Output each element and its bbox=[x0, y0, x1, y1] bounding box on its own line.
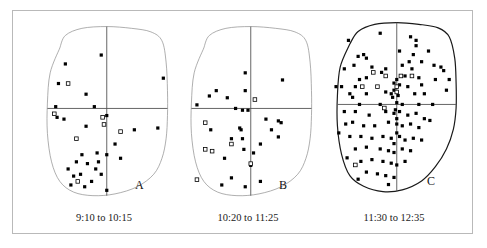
filled-square-marker bbox=[408, 60, 411, 63]
scatter-figure: A 9:10 to 10:15 B 10:20 to 11:25 C 11:30… bbox=[0, 0, 487, 248]
filled-square-marker bbox=[357, 55, 360, 58]
filled-square-marker bbox=[395, 122, 398, 125]
filled-square-marker bbox=[414, 39, 417, 42]
filled-square-marker bbox=[384, 90, 387, 93]
filled-square-marker bbox=[390, 92, 393, 95]
filled-square-marker bbox=[345, 156, 348, 159]
filled-square-marker bbox=[392, 151, 395, 154]
filled-square-marker bbox=[344, 122, 347, 125]
filled-square-marker bbox=[434, 78, 437, 81]
filled-square-marker bbox=[392, 142, 395, 145]
filled-square-marker bbox=[337, 131, 340, 134]
filled-square-marker bbox=[428, 119, 431, 122]
open-square-marker bbox=[372, 71, 376, 75]
panel-c-letter: C bbox=[427, 175, 435, 187]
filled-square-marker bbox=[381, 160, 384, 163]
open-square-marker bbox=[354, 163, 358, 167]
panel-c-plot bbox=[319, 13, 469, 203]
filled-square-marker bbox=[370, 137, 373, 140]
filled-square-marker bbox=[445, 89, 448, 92]
filled-square-marker bbox=[381, 135, 384, 138]
filled-square-marker bbox=[395, 101, 398, 104]
filled-square-marker bbox=[365, 76, 368, 79]
filled-square-marker bbox=[347, 39, 350, 42]
filled-square-marker bbox=[354, 147, 357, 150]
filled-square-marker bbox=[420, 138, 423, 141]
filled-square-marker bbox=[442, 69, 445, 72]
open-square-marker bbox=[399, 74, 403, 78]
filled-square-marker bbox=[414, 112, 417, 115]
filled-square-marker bbox=[395, 163, 398, 166]
filled-square-marker bbox=[420, 60, 423, 63]
figure-frame: A 9:10 to 10:15 B 10:20 to 11:25 C 11:30… bbox=[12, 10, 473, 234]
filled-square-marker bbox=[343, 67, 346, 70]
filled-square-marker bbox=[370, 65, 373, 68]
filled-square-marker bbox=[368, 114, 371, 117]
filled-square-marker bbox=[398, 49, 401, 52]
open-square-marker bbox=[383, 106, 387, 110]
filled-square-marker bbox=[352, 64, 355, 67]
filled-square-marker bbox=[376, 172, 379, 175]
filled-square-marker bbox=[417, 103, 420, 106]
filled-square-marker bbox=[387, 149, 390, 152]
filled-square-marker bbox=[334, 85, 337, 88]
filled-square-marker bbox=[348, 92, 351, 95]
panel-c-caption: 11:30 to 12:35 bbox=[321, 213, 467, 224]
filled-square-marker bbox=[365, 146, 368, 149]
filled-square-marker bbox=[359, 135, 362, 138]
filled-square-marker bbox=[403, 74, 406, 77]
filled-square-marker bbox=[384, 174, 387, 177]
filled-square-marker bbox=[448, 78, 451, 81]
filled-square-marker bbox=[391, 96, 394, 99]
filled-square-marker bbox=[398, 135, 401, 138]
filled-square-marker bbox=[410, 67, 413, 70]
filled-square-marker bbox=[362, 53, 365, 56]
filled-square-marker bbox=[392, 81, 395, 84]
filled-square-marker bbox=[390, 162, 393, 165]
filled-square-marker bbox=[365, 57, 368, 60]
open-square-marker bbox=[395, 90, 399, 94]
filled-square-marker bbox=[379, 32, 382, 35]
filled-square-marker bbox=[409, 122, 412, 125]
filled-square-marker bbox=[370, 158, 373, 161]
filled-square-marker bbox=[379, 103, 382, 106]
filled-square-marker bbox=[351, 121, 354, 124]
filled-square-marker bbox=[413, 92, 416, 95]
filled-square-marker bbox=[406, 85, 409, 88]
filled-square-marker bbox=[379, 147, 382, 150]
filled-square-marker bbox=[409, 149, 412, 152]
filled-square-marker bbox=[412, 53, 415, 56]
filled-square-marker bbox=[401, 103, 404, 106]
filled-square-marker bbox=[403, 160, 406, 163]
filled-square-marker bbox=[357, 178, 360, 181]
filled-square-marker bbox=[365, 92, 368, 95]
open-square-marker bbox=[410, 74, 414, 78]
filled-square-marker bbox=[397, 94, 400, 97]
filled-square-marker bbox=[384, 67, 387, 70]
filled-square-marker bbox=[406, 114, 409, 117]
filled-square-marker bbox=[340, 85, 343, 88]
open-square-marker bbox=[395, 85, 399, 89]
filled-square-marker bbox=[354, 85, 357, 88]
filled-square-marker bbox=[384, 110, 387, 113]
filled-square-marker bbox=[394, 108, 397, 111]
filled-square-marker bbox=[431, 103, 434, 106]
filled-square-marker bbox=[390, 137, 393, 140]
filled-square-marker bbox=[439, 65, 442, 68]
filled-square-marker bbox=[395, 78, 398, 81]
filled-square-marker bbox=[403, 138, 406, 141]
filled-square-marker bbox=[412, 137, 415, 140]
filled-square-marker bbox=[420, 83, 423, 86]
open-square-marker bbox=[376, 85, 380, 89]
filled-square-marker bbox=[351, 96, 354, 99]
filled-square-marker bbox=[432, 64, 435, 67]
filled-square-marker bbox=[343, 110, 346, 113]
filled-square-marker bbox=[358, 103, 361, 106]
filled-square-marker bbox=[373, 124, 376, 127]
filled-square-marker bbox=[401, 124, 404, 127]
filled-square-marker bbox=[362, 124, 365, 127]
filled-square-marker bbox=[354, 110, 357, 113]
filled-square-marker bbox=[395, 117, 398, 120]
filled-square-marker bbox=[414, 44, 417, 47]
filled-square-marker bbox=[380, 71, 383, 74]
